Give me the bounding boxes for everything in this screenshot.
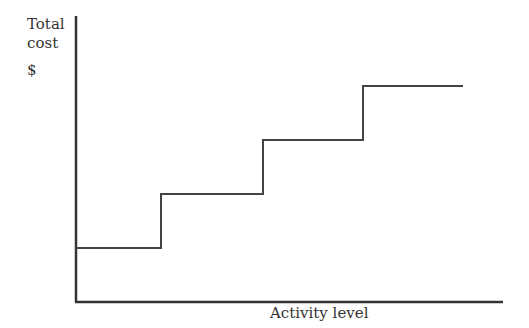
step-cost-line <box>76 86 463 248</box>
chart-plot <box>0 0 529 328</box>
